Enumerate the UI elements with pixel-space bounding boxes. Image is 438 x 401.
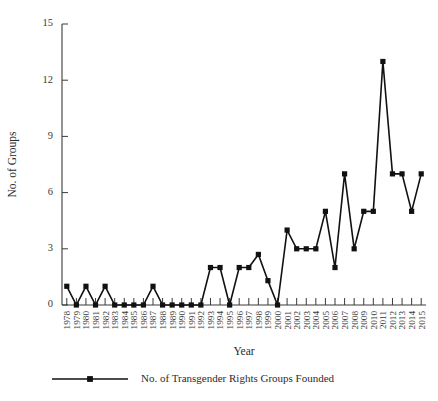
data-point (112, 302, 117, 307)
y-tick-label: 15 (43, 17, 54, 28)
data-point (189, 302, 194, 307)
data-point (227, 302, 232, 307)
data-point (208, 265, 213, 270)
x-tick-label: 1998 (254, 311, 264, 330)
x-tick-label: 1991 (187, 311, 197, 330)
data-point (313, 246, 318, 251)
data-point (170, 302, 175, 307)
data-point (265, 278, 270, 283)
x-axis-title: Year (233, 345, 254, 357)
data-point (74, 302, 79, 307)
x-tick-label: 1993 (206, 311, 216, 330)
x-tick-label: 2009 (359, 311, 369, 330)
x-tick-label: 2001 (283, 311, 293, 330)
data-point (342, 171, 347, 176)
x-tick-label: 2010 (369, 311, 379, 330)
data-point (141, 302, 146, 307)
chart-container: 03691215 1978197919801981198219831984198… (0, 0, 438, 401)
data-point (361, 209, 366, 214)
data-series (64, 59, 424, 308)
x-tick-label: 2005 (321, 311, 331, 330)
data-point (64, 284, 69, 289)
data-point (83, 284, 88, 289)
x-tick-label: 2011 (378, 311, 388, 329)
x-tick-label: 1986 (139, 311, 149, 330)
line-chart: 03691215 1978197919801981198219831984198… (0, 0, 438, 401)
data-point (93, 302, 98, 307)
data-point (371, 209, 376, 214)
x-tick-label: 2006 (330, 311, 340, 330)
data-point (390, 171, 395, 176)
x-tick-label: 1995 (225, 311, 235, 330)
x-tick-label: 1987 (148, 311, 158, 330)
x-tick-label: 1984 (120, 311, 130, 330)
x-tick-label: 1988 (158, 311, 168, 330)
x-tick-label: 2004 (311, 311, 321, 330)
data-point (179, 302, 184, 307)
y-axis: 03691215 (43, 17, 69, 309)
data-point (409, 209, 414, 214)
y-tick-label: 0 (48, 298, 53, 309)
x-tick-label: 2008 (350, 311, 360, 330)
legend-label: No. of Transgender Rights Groups Founded (141, 372, 335, 384)
y-tick-label: 12 (43, 74, 54, 85)
x-tick-label: 1980 (81, 311, 91, 330)
x-tick-label: 1989 (168, 311, 178, 330)
data-point (122, 302, 127, 307)
x-tick-label: 1997 (244, 311, 254, 330)
x-tick-label: 2003 (302, 311, 312, 330)
y-tick-label: 6 (48, 186, 53, 197)
chart-legend: No. of Transgender Rights Groups Founded (52, 372, 335, 384)
data-point (294, 246, 299, 251)
x-tick-label: 1999 (263, 311, 273, 330)
data-point (419, 171, 424, 176)
data-point (352, 246, 357, 251)
x-tick-label: 2015 (417, 311, 427, 330)
x-tick-label: 1979 (72, 311, 82, 330)
x-tick-label: 2013 (397, 311, 407, 330)
y-axis-title: No. of Groups (6, 131, 19, 198)
data-point (160, 302, 165, 307)
x-tick-label: 1990 (177, 311, 187, 330)
x-tick-label: 2014 (407, 311, 417, 330)
data-point (217, 265, 222, 270)
data-point (256, 252, 261, 257)
data-point (103, 284, 108, 289)
data-point (285, 227, 290, 232)
y-tick-label: 9 (48, 130, 53, 141)
x-tick-label: 1978 (62, 311, 72, 330)
data-point (399, 171, 404, 176)
x-tick-label: 1992 (196, 311, 206, 330)
data-point (237, 265, 242, 270)
x-tick-label: 1983 (110, 311, 120, 330)
x-tick-label: 1996 (235, 311, 245, 330)
data-point (131, 302, 136, 307)
x-tick-label: 1982 (101, 311, 111, 330)
data-point (332, 265, 337, 270)
data-point (150, 284, 155, 289)
data-point (198, 302, 203, 307)
data-point (275, 302, 280, 307)
x-tick-label: 1985 (129, 311, 139, 330)
x-tick-label: 1994 (215, 311, 225, 330)
x-tick-label: 2000 (273, 311, 283, 330)
data-point (323, 209, 328, 214)
y-tick-label: 3 (48, 242, 53, 253)
x-tick-label: 1981 (91, 311, 101, 330)
data-point (380, 59, 385, 64)
legend-marker-sample (87, 376, 93, 382)
data-point (246, 265, 251, 270)
x-tick-label: 2007 (340, 311, 350, 330)
x-tick-label: 2012 (388, 311, 398, 330)
data-point (304, 246, 309, 251)
x-tick-label: 2002 (292, 311, 302, 330)
